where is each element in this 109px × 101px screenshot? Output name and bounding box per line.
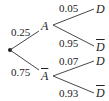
prob-Abar: 0.75 [11,67,30,78]
node-A: A [41,20,48,32]
node-Abar-Dbar: D [96,87,105,99]
node-Abar: A [41,70,48,82]
prob-Abar-D: 0.07 [59,56,78,67]
prob-A-D: 0.05 [59,3,78,14]
node-A-Dbar: D [96,41,105,53]
node-Abar-D: D [96,55,105,67]
prob-Abar-Dbar: 0.93 [59,88,78,99]
tree-lines [0,0,109,101]
prob-A: 0.25 [11,27,30,38]
node-A-D: D [96,3,105,15]
prob-A-Dbar: 0.95 [59,38,78,49]
